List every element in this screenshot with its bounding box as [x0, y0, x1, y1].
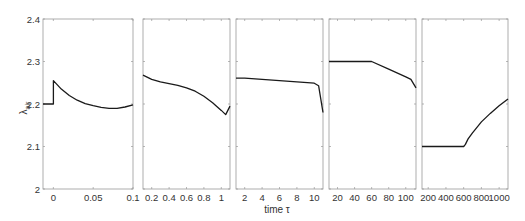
axes-box — [329, 19, 416, 189]
x-tick-label: 200 — [420, 192, 436, 203]
x-tick-label: 8 — [294, 192, 299, 203]
y-axis-label: λair — [18, 101, 31, 114]
subplot-2: 0.20.40.60.81 — [143, 19, 230, 203]
x-tick-label: 0.8 — [197, 192, 210, 203]
subplot-3: 246810 — [236, 19, 323, 203]
data-line — [43, 81, 133, 109]
y-tick-label: 2 — [35, 184, 40, 195]
x-tick-label: 400 — [438, 192, 454, 203]
x-tick-label: 4 — [259, 192, 264, 203]
axes-box — [143, 19, 230, 189]
data-line — [236, 78, 323, 112]
x-tick-label: 2 — [242, 192, 247, 203]
x-tick-label: 0 — [51, 192, 56, 203]
x-tick-label: 40 — [349, 192, 360, 203]
axes-box — [236, 19, 323, 189]
x-tick-label: 100 — [398, 192, 414, 203]
subplot-5: 2004006008001000 — [420, 19, 509, 203]
x-tick-label: 0.05 — [84, 192, 103, 203]
x-tick-label: 1000 — [489, 192, 510, 203]
x-tick-label: 60 — [366, 192, 377, 203]
x-tick-label: 0.4 — [162, 192, 175, 203]
x-tick-label: 6 — [277, 192, 282, 203]
y-tick-label: 2.1 — [27, 141, 40, 152]
data-line — [422, 99, 508, 147]
y-tick-label: 2.4 — [27, 14, 40, 25]
x-tick-label: 0.1 — [126, 192, 139, 203]
x-tick-label: 10 — [309, 192, 320, 203]
x-tick-label: 20 — [332, 192, 343, 203]
x-tick-label: 0.2 — [145, 192, 158, 203]
x-axis-label: time τ — [264, 204, 290, 215]
subplot-4: 20406080100 — [329, 19, 416, 203]
y-tick-label: 2.3 — [27, 56, 40, 67]
x-tick-label: 800 — [473, 192, 489, 203]
x-tick-label: 80 — [383, 192, 394, 203]
x-tick-label: 600 — [456, 192, 472, 203]
data-line — [143, 75, 230, 115]
subplot-1: 00.050.1 — [43, 19, 140, 203]
y-axis-label-subscript: air — [24, 101, 31, 109]
x-tick-label: 1 — [219, 192, 224, 203]
axes-box — [422, 19, 508, 189]
subplots: 00.050.10.20.40.60.812468102040608010020… — [43, 19, 510, 203]
x-tick-label: 0.6 — [180, 192, 193, 203]
data-line — [329, 62, 416, 88]
figure: 00.050.10.20.40.60.812468102040608010020… — [0, 0, 525, 221]
